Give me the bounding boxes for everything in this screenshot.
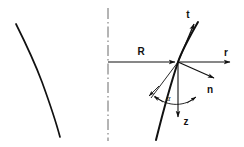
left-panel	[16, 24, 60, 137]
technical-diagram-figure: R t r n z α	[0, 0, 244, 147]
label-n: n	[207, 84, 213, 95]
right-panel: R t r n z α	[108, 8, 230, 141]
label-r: r	[224, 47, 228, 58]
angle-arc-arrow-right	[187, 97, 196, 103]
angle-dimension-arc	[155, 96, 196, 104]
label-z: z	[184, 116, 189, 127]
tangent-axis-t	[178, 24, 194, 62]
label-t: t	[186, 9, 190, 20]
label-alpha: α	[166, 93, 171, 103]
label-R: R	[137, 46, 145, 57]
angle-reference-line	[151, 62, 178, 98]
meridian-curve	[16, 24, 60, 137]
diagram-canvas: R t r n z α	[0, 0, 244, 147]
angle-arc-arrow-left	[154, 97, 163, 103]
normal-axis-n	[178, 62, 214, 78]
shell-curve	[156, 22, 198, 140]
